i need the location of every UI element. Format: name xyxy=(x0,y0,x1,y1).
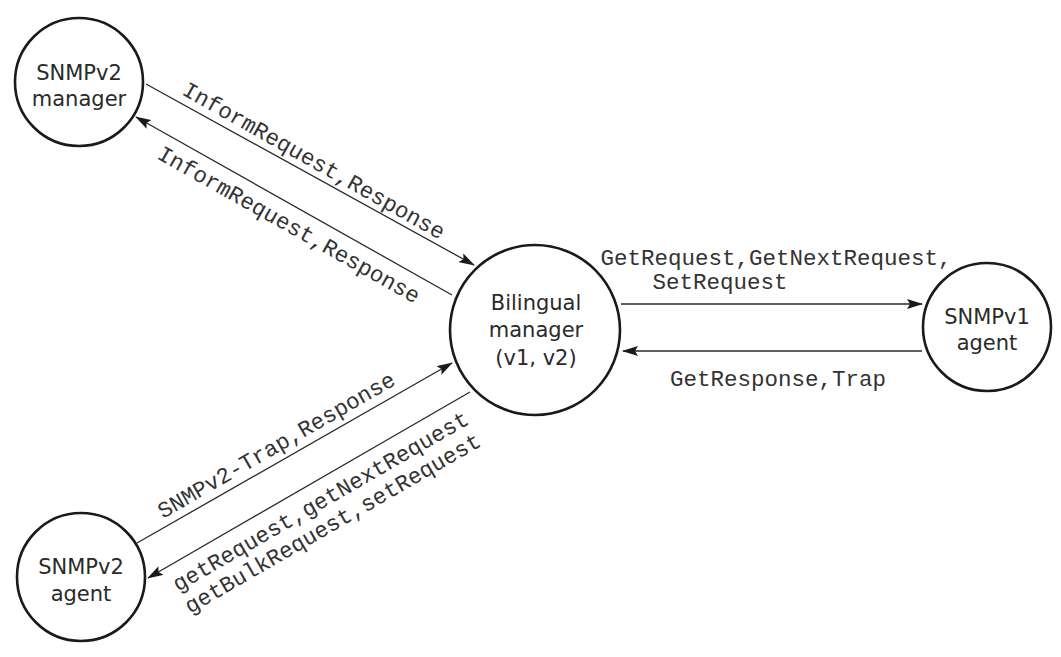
node-label-line1: SNMPv2 xyxy=(36,61,122,85)
node-snmpv2-agent: SNMPv2 agent xyxy=(17,513,145,641)
node-label-line2: agent xyxy=(957,331,1018,355)
edge-label-inform-request-down: InformRequest,Response xyxy=(178,77,450,245)
edge-label-get-request-v2-line2: getBulkRequest,setRequest xyxy=(181,429,486,620)
node-snmpv2-manager: SNMPv2 manager xyxy=(15,18,143,146)
edge-label-inform-request-up: InformRequest,Response xyxy=(153,141,425,309)
edge-label-get-response: GetResponse,Trap xyxy=(670,367,886,393)
node-label-line2: manager xyxy=(32,87,127,111)
edge-bilingual-to-v1agent: GetRequest,GetNextRequest, SetRequest xyxy=(600,246,951,304)
edge-label-get-request-line2: SetRequest xyxy=(652,270,787,296)
snmp-diagram: InformRequest,Response InformRequest,Res… xyxy=(0,0,1061,657)
node-label-line1: SNMPv2 xyxy=(38,555,124,579)
node-snmpv1-agent: SNMPv1 agent xyxy=(923,263,1051,391)
node-label-line1: SNMPv1 xyxy=(944,305,1030,329)
node-label-line2: agent xyxy=(51,582,112,606)
edge-v1agent-to-bilingual: GetResponse,Trap xyxy=(623,351,922,393)
node-bilingual-manager: Bilingual manager (v1, v2) xyxy=(450,245,620,415)
node-label-line1: Bilingual xyxy=(491,291,582,315)
node-label-line3: (v1, v2) xyxy=(495,346,576,370)
node-label-line2: manager xyxy=(489,318,584,342)
edge-label-get-request-line1: GetRequest,GetNextRequest, xyxy=(600,246,951,272)
